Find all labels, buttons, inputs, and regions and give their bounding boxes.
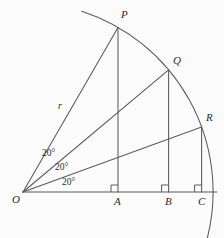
radius-oq [23, 70, 169, 192]
point-label-p: P [121, 9, 128, 20]
point-label-o: O [12, 194, 20, 205]
point-label-c: C [198, 196, 205, 207]
angle-label-3: 20° [62, 178, 75, 188]
right-angle-mark-a [111, 185, 118, 192]
sector-arc [82, 11, 213, 238]
point-label-a: A [114, 196, 121, 207]
geometry-figure [0, 0, 224, 238]
angle-label-2: 20° [55, 163, 68, 173]
radius-label: r [58, 101, 62, 111]
point-label-r: R [206, 112, 213, 123]
radius-op [23, 28, 118, 193]
radius-or [23, 127, 202, 192]
point-label-q: Q [173, 55, 181, 66]
diagram-canvas: O P Q R A B C r 20° 20° 20° [0, 0, 224, 238]
angle-label-1: 20° [42, 149, 55, 159]
right-angle-mark-b [162, 185, 169, 192]
point-label-b: B [165, 196, 172, 207]
right-angle-mark-c [195, 185, 202, 192]
